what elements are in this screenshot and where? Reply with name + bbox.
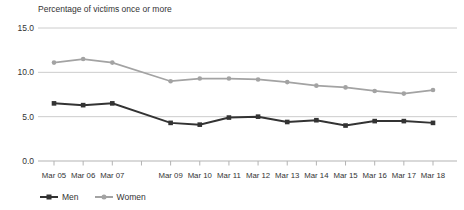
men-marker-icon [47, 194, 52, 199]
y-tick-label: 5.0 [22, 112, 34, 122]
data-point-women [285, 80, 290, 85]
x-tick-label: Mar 14 [304, 171, 329, 180]
legend-item-women: Women [95, 192, 146, 202]
chart-legend: Men Women [40, 190, 146, 203]
x-tick-label: Mar 15 [333, 171, 358, 180]
y-tick-label: 0.0 [22, 156, 34, 166]
x-tick-label: Mar 06 [71, 171, 95, 180]
y-tick-label: 10.0 [17, 67, 34, 77]
women-marker-icon [101, 194, 106, 199]
line-chart-plot: 0.05.010.015.0Mar 05Mar 06Mar 07Mar 09Ma… [0, 0, 464, 210]
x-tick-label: Mar 18 [421, 171, 445, 180]
data-point-women [431, 88, 436, 93]
data-point-women [402, 91, 407, 96]
data-point-men [110, 101, 115, 106]
data-point-men [227, 115, 232, 120]
data-point-women [81, 57, 86, 62]
x-tick-label: Mar 17 [392, 171, 416, 180]
chart-canvas: Percentage of victims once or more 0.05.… [0, 0, 464, 210]
data-point-men [431, 121, 436, 126]
data-point-men [285, 120, 290, 125]
data-point-women [314, 83, 319, 88]
data-point-men [52, 101, 57, 106]
data-point-men [168, 121, 173, 126]
data-point-men [256, 114, 261, 119]
x-tick-label: Mar 16 [363, 171, 387, 180]
data-point-men [372, 119, 377, 124]
data-point-women [110, 60, 115, 65]
data-point-women [227, 76, 232, 81]
legend-item-men: Men [40, 192, 79, 202]
data-point-men [197, 122, 202, 127]
data-point-women [52, 60, 57, 65]
data-point-women [372, 89, 377, 94]
x-tick-label: Mar 13 [275, 171, 299, 180]
data-point-men [343, 123, 348, 128]
data-point-women [168, 79, 173, 84]
data-point-men [314, 118, 319, 123]
y-tick-label: 15.0 [17, 23, 34, 33]
x-tick-label: Mar 12 [246, 171, 270, 180]
x-tick-label: Mar 07 [100, 171, 124, 180]
men-line-swatch-icon [40, 196, 58, 198]
x-tick-label: Mar 09 [158, 171, 182, 180]
data-point-women [256, 77, 261, 82]
legend-label-men: Men [62, 192, 79, 202]
women-line-swatch-icon [95, 196, 113, 198]
x-tick-label: Mar 11 [217, 171, 241, 180]
data-point-men [402, 119, 407, 124]
x-tick-label: Mar 10 [188, 171, 213, 180]
x-tick-label: Mar 05 [42, 171, 67, 180]
data-point-women [197, 76, 202, 81]
data-point-men [81, 103, 86, 108]
legend-label-women: Women [117, 192, 146, 202]
data-point-women [343, 85, 348, 90]
